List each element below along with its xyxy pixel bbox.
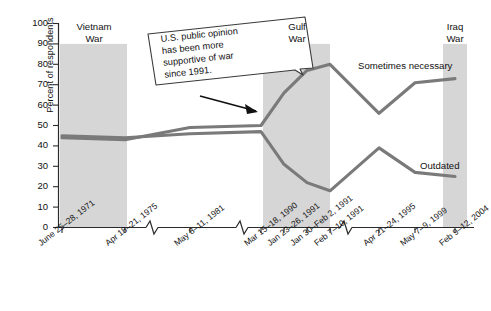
band-label-vietnam-line1: Vietnam — [61, 21, 127, 33]
y-tick-label-70: 70 — [18, 78, 48, 89]
y-tick-label-80: 80 — [18, 58, 48, 69]
callout-arrow — [200, 96, 258, 114]
band-label-iraq-line1: Iraq — [428, 21, 482, 33]
band-label-gulf-line1: Gulf — [264, 21, 330, 33]
callout-text: U.S. public opinion has been more suppor… — [160, 25, 242, 81]
y-tick-label-50: 50 — [18, 119, 48, 130]
y-tick-label-10: 10 — [18, 201, 48, 212]
y-tick-label-30: 30 — [18, 160, 48, 171]
y-tick-label-100: 100 — [14, 17, 48, 28]
band-label-vietnam: Vietnam War — [61, 21, 127, 44]
band-label-vietnam-line2: War — [61, 33, 127, 45]
y-tick-label-0: 0 — [18, 221, 48, 232]
y-tick-label-90: 90 — [18, 37, 48, 48]
band-label-iraq: Iraq War — [428, 21, 482, 44]
y-tick-label-60: 60 — [18, 99, 48, 110]
y-tick-label-20: 20 — [18, 180, 48, 191]
band-label-iraq-line2: War — [428, 33, 482, 45]
series-label-outdated: Outdated — [420, 160, 459, 171]
band-label-gulf-line2: War — [264, 33, 330, 45]
shaded-band-iraq — [443, 44, 467, 228]
series-label-sometimes-necessary: Sometimes necessary — [358, 60, 452, 71]
band-label-gulf: Gulf War — [264, 21, 330, 44]
y-tick-label-40: 40 — [18, 139, 48, 150]
